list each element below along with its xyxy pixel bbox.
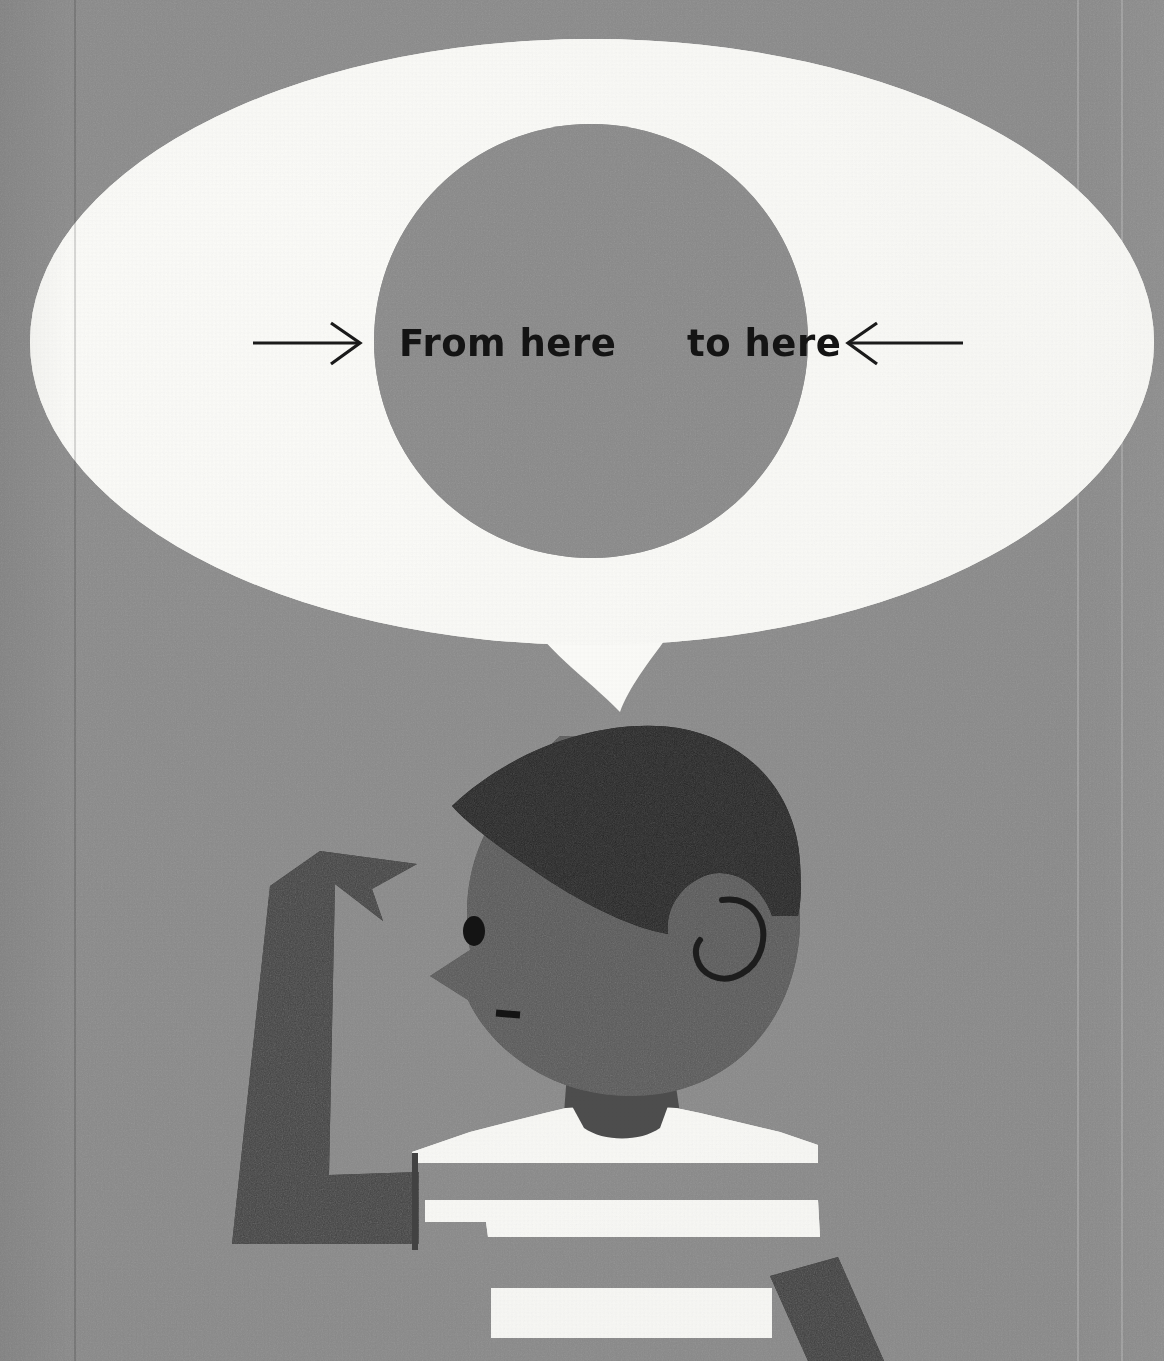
illustration-canvas: From here to here bbox=[0, 0, 1164, 1361]
sleeve-edge bbox=[412, 1153, 418, 1250]
label-from-here: From here bbox=[399, 322, 616, 365]
illustration-artboard: From here to here bbox=[0, 0, 1164, 1361]
eye bbox=[463, 916, 485, 946]
label-to-here: to here bbox=[687, 322, 841, 365]
mouth bbox=[496, 1013, 520, 1015]
shirt-stripe-2-texture bbox=[491, 1288, 772, 1338]
